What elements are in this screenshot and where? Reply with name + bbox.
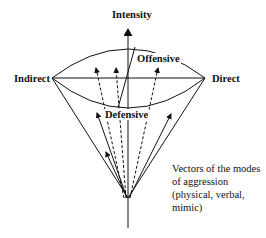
dashed-vector [116, 68, 126, 198]
intensity-label: Intensity [112, 9, 152, 20]
direct-label: Direct [212, 73, 240, 84]
caption-line: mimic) [172, 201, 260, 214]
cone-edge-left [52, 78, 128, 198]
caption-line: (physical, verbal, [172, 188, 260, 201]
indirect-label: Indirect [14, 73, 50, 84]
vectors-caption: Vectors of the modes of aggression (phys… [172, 162, 260, 214]
solid-vector [106, 152, 127, 198]
defensive-label: Defensive [104, 109, 149, 120]
offensive-label: Offensive [136, 53, 181, 64]
dashed-vector [130, 68, 158, 198]
solid-vector [129, 114, 171, 198]
caption-line: of aggression [172, 175, 260, 188]
caption-line: Vectors of the modes [172, 162, 260, 175]
